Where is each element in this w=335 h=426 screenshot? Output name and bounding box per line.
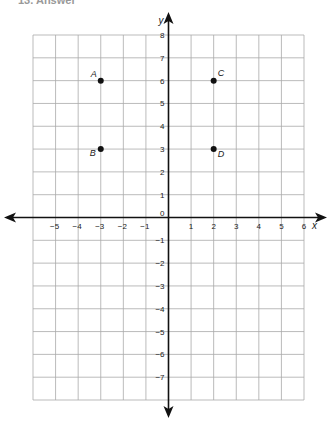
y-tick-label: 0 xyxy=(160,209,165,218)
y-tick-label: −5 xyxy=(155,328,165,337)
y-tick-label: 1 xyxy=(160,191,165,200)
x-tick-label: 1 xyxy=(189,222,194,231)
point-label-b: B xyxy=(90,148,96,158)
tick-labels: −5−4−3−2−1123456876543210−1−2−3−4−5−6−7 xyxy=(50,31,307,382)
x-axis-label: x xyxy=(311,220,318,231)
point-label-a: A xyxy=(90,69,97,79)
point-d xyxy=(211,146,217,152)
points: ABCD xyxy=(90,68,225,159)
y-tick-label: 4 xyxy=(160,122,165,131)
y-tick-label: −1 xyxy=(155,236,165,245)
x-tick-label: 2 xyxy=(211,222,216,231)
y-tick-label: 2 xyxy=(160,168,165,177)
y-tick-label: 7 xyxy=(160,54,165,63)
x-tick-label: 4 xyxy=(257,222,262,231)
y-tick-label: −7 xyxy=(155,373,165,382)
y-tick-label: −4 xyxy=(155,305,165,314)
point-c xyxy=(211,78,217,84)
coordinate-plane: xy −5−4−3−2−1123456876543210−1−2−3−4−5−6… xyxy=(0,0,335,426)
y-tick-label: −6 xyxy=(155,350,165,359)
x-tick-label: 3 xyxy=(234,222,239,231)
x-tick-label: −3 xyxy=(95,222,105,231)
x-tick-label: −1 xyxy=(140,222,150,231)
x-tick-label: −5 xyxy=(50,222,60,231)
point-a xyxy=(98,78,104,84)
y-tick-label: 3 xyxy=(160,145,165,154)
y-tick-label: −2 xyxy=(155,259,165,268)
x-tick-label: 6 xyxy=(302,222,307,231)
y-tick-label: 6 xyxy=(160,77,165,86)
x-tick-label: −2 xyxy=(118,222,128,231)
x-tick-label: −4 xyxy=(73,222,83,231)
y-axis-label: y xyxy=(158,15,165,26)
x-tick-label: 5 xyxy=(279,222,284,231)
point-label-d: D xyxy=(218,149,225,159)
y-tick-label: 8 xyxy=(160,31,165,40)
axes: xy xyxy=(4,12,327,418)
point-b xyxy=(98,146,104,152)
y-tick-label: 5 xyxy=(160,99,165,108)
point-label-c: C xyxy=(218,68,225,78)
y-tick-label: −3 xyxy=(155,282,165,291)
